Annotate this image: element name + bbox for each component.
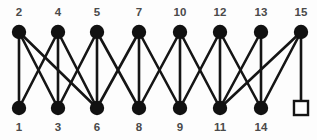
graph-node-11[interactable] — [213, 101, 227, 115]
bipartite-graph-figure: 245710121315136891114 — [0, 0, 317, 140]
graph-node-9[interactable] — [173, 101, 187, 115]
node-label-6: 6 — [94, 121, 100, 133]
graph-node-13[interactable] — [254, 25, 268, 39]
graph-node-8[interactable] — [132, 101, 146, 115]
node-label-5: 5 — [94, 6, 101, 18]
node-label-14: 14 — [255, 121, 268, 133]
graph-node-5[interactable] — [90, 25, 104, 39]
node-label-8: 8 — [136, 121, 143, 133]
graph-node-unlabeled[interactable] — [294, 101, 308, 115]
graph-node-15[interactable] — [294, 25, 308, 39]
graph-node-10[interactable] — [173, 25, 187, 39]
node-label-2: 2 — [16, 6, 22, 18]
graph-node-12[interactable] — [213, 25, 227, 39]
graph-node-14[interactable] — [254, 101, 268, 115]
node-label-9: 9 — [177, 121, 183, 133]
graph-node-2[interactable] — [12, 25, 26, 39]
graph-canvas: 245710121315136891114 — [0, 0, 317, 140]
node-label-7: 7 — [136, 6, 142, 18]
node-label-4: 4 — [55, 6, 62, 18]
graph-edge — [261, 32, 301, 108]
node-label-11: 11 — [214, 121, 227, 133]
node-label-13: 13 — [255, 6, 268, 18]
graph-node-3[interactable] — [51, 101, 65, 115]
graph-node-7[interactable] — [132, 25, 146, 39]
graph-node-6[interactable] — [90, 101, 104, 115]
node-label-3: 3 — [55, 121, 61, 133]
node-label-10: 10 — [174, 6, 187, 18]
graph-node-1[interactable] — [12, 101, 26, 115]
node-label-15: 15 — [295, 6, 308, 18]
node-label-12: 12 — [214, 6, 227, 18]
edges-group — [19, 32, 301, 108]
node-label-1: 1 — [16, 121, 23, 133]
graph-node-4[interactable] — [51, 25, 65, 39]
